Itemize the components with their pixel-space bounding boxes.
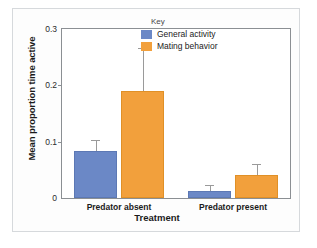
bar-mating-behavior[interactable]	[121, 91, 164, 198]
error-bar	[96, 141, 97, 151]
error-bar-cap	[252, 164, 261, 165]
error-bar	[210, 186, 211, 191]
error-bar	[257, 165, 258, 175]
legend-label-mating-behavior: Mating behavior	[157, 41, 217, 51]
legend-swatch-mating-behavior	[141, 42, 152, 51]
legend-item-mating-behavior[interactable]: Mating behavior	[141, 41, 237, 51]
y-tick-mark	[58, 142, 62, 143]
legend-label-general-activity: General activity	[157, 29, 216, 39]
y-tick-label: 0	[52, 193, 57, 203]
figure-container: Mean proportion time active Treatment 00…	[12, 8, 300, 232]
bar-general-activity[interactable]	[74, 151, 117, 198]
legend-swatch-general-activity	[141, 30, 152, 39]
legend: Key General activity Mating behavior	[141, 17, 237, 53]
error-bar-cap	[205, 185, 214, 186]
bar-mating-behavior[interactable]	[235, 175, 278, 198]
legend-title: Key	[151, 17, 237, 26]
bar-general-activity[interactable]	[188, 191, 231, 198]
plot-area: 00.10.20.3 Predator absentPredator prese…	[61, 28, 291, 199]
legend-item-general-activity[interactable]: General activity	[141, 29, 237, 39]
x-axis-category-label: Predator present	[199, 202, 267, 212]
error-bar	[143, 49, 144, 91]
y-tick-label: 0.1	[45, 137, 57, 147]
y-tick-label: 0.3	[45, 24, 57, 34]
x-axis-category-label: Predator absent	[87, 202, 152, 212]
x-axis-title: Treatment	[13, 212, 301, 223]
error-bar-cap	[91, 140, 100, 141]
y-axis-title: Mean proportion time active	[26, 24, 37, 174]
y-tick-label: 0.2	[45, 80, 57, 90]
y-tick-mark	[58, 85, 62, 86]
